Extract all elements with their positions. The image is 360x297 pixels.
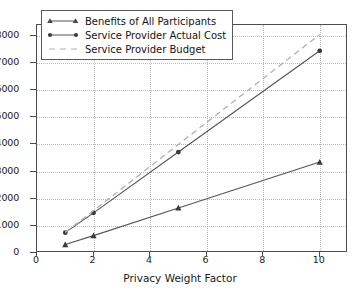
x-axis-tick-mark xyxy=(319,252,320,257)
chart-figure: 010002000300040005000600070008000 024681… xyxy=(0,0,360,297)
y-axis-tick-label: 1000 xyxy=(0,220,19,230)
y-axis-tick-label: 3000 xyxy=(0,166,19,176)
legend-marker-circle-icon xyxy=(46,29,80,41)
data-point-marker xyxy=(317,48,322,53)
x-axis-tick-mark xyxy=(206,252,207,257)
series-line xyxy=(65,35,319,233)
legend-item-budget: Service Provider Budget xyxy=(46,42,226,56)
y-axis-tick-label: 0 xyxy=(0,247,19,257)
y-axis-tick-label: 6000 xyxy=(0,84,19,94)
legend-label-actual-cost: Service Provider Actual Cost xyxy=(85,30,226,41)
series-line xyxy=(65,51,319,233)
series-line xyxy=(65,162,319,245)
legend-item-benefits: Benefits of All Participants xyxy=(46,14,226,28)
legend-label-budget: Service Provider Budget xyxy=(85,44,205,55)
legend-label-benefits: Benefits of All Participants xyxy=(85,16,216,27)
x-axis-label: Privacy Weight Factor xyxy=(0,272,360,284)
y-axis-tick-label: 4000 xyxy=(0,138,19,148)
x-axis-tick-mark xyxy=(36,252,37,257)
chart-legend: Benefits of All Participants Service Pro… xyxy=(41,10,233,60)
data-point-marker xyxy=(317,159,323,165)
data-point-marker xyxy=(176,150,181,155)
x-axis-tick-mark xyxy=(262,252,263,257)
y-axis-tick-label: 8000 xyxy=(0,30,19,40)
legend-marker-triangle-icon xyxy=(46,15,80,27)
y-axis-tick-label: 2000 xyxy=(0,193,19,203)
x-axis-tick-mark xyxy=(149,252,150,257)
legend-marker-dashed-icon xyxy=(46,43,80,55)
y-axis-tick-label: 7000 xyxy=(0,57,19,67)
x-axis-tick-mark xyxy=(93,252,94,257)
legend-item-actual-cost: Service Provider Actual Cost xyxy=(46,28,226,42)
y-axis-tick-label: 5000 xyxy=(0,111,19,121)
